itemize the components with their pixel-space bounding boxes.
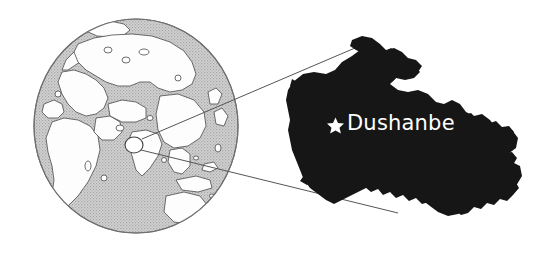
capital-star-layer: [0, 0, 549, 257]
locator-map-figure: Dushanbe: [0, 0, 549, 257]
star-icon: [327, 118, 344, 134]
